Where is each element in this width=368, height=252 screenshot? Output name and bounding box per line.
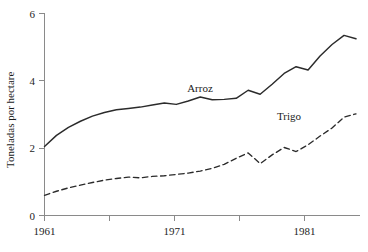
series-line-trigo bbox=[45, 114, 357, 195]
y-tick-label-0: 0 bbox=[30, 210, 36, 222]
x-tick-label-1971: 1971 bbox=[164, 225, 186, 237]
y-tick-label-6: 6 bbox=[30, 8, 36, 20]
x-tick-label-1981: 1981 bbox=[294, 225, 316, 237]
series-label-arroz: Arroz bbox=[187, 82, 213, 94]
line-chart: Toneladas por hectare 6 4 2 0 1961 1971 … bbox=[0, 0, 368, 252]
chart-container: Toneladas por hectare 6 4 2 0 1961 1971 … bbox=[0, 0, 368, 252]
x-tick-label-1961: 1961 bbox=[34, 225, 56, 237]
y-tick-label-2: 2 bbox=[30, 142, 36, 154]
series-label-trigo: Trigo bbox=[277, 110, 302, 122]
y-axis-title: Toneladas por hectare bbox=[4, 72, 16, 168]
y-tick-label-4: 4 bbox=[30, 75, 36, 87]
